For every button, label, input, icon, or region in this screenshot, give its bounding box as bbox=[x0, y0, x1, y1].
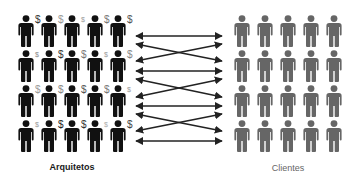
person-icon bbox=[257, 85, 272, 117]
dollar-sign-icon: $ bbox=[35, 121, 39, 128]
architects-group: $$$$$$$$$$$$$$$$$$$$ bbox=[18, 14, 133, 152]
dollar-sign-icon: $ bbox=[104, 84, 110, 95]
person-icon bbox=[257, 15, 272, 47]
person-icon bbox=[303, 120, 318, 152]
dollar-sign-icon: $ bbox=[127, 14, 133, 25]
person-icon bbox=[18, 15, 33, 47]
person-icon bbox=[41, 85, 56, 117]
dollar-sign-icon: $ bbox=[81, 16, 85, 23]
dollar-sign-icon: $ bbox=[127, 86, 131, 93]
person-icon bbox=[326, 85, 341, 117]
person-icon bbox=[303, 50, 318, 82]
person-icon bbox=[280, 85, 295, 117]
dollar-sign-icon: $ bbox=[35, 84, 41, 95]
person-icon bbox=[87, 50, 102, 82]
person-icon bbox=[64, 120, 79, 152]
dollar-sign-icon: $ bbox=[127, 49, 133, 60]
dollar-sign-icon: $ bbox=[35, 51, 39, 58]
dollar-sign-icon: $ bbox=[58, 49, 64, 60]
clients-group bbox=[234, 15, 341, 152]
person-icon bbox=[326, 120, 341, 152]
person-icon bbox=[87, 120, 102, 152]
person-icon bbox=[303, 15, 318, 47]
person-icon bbox=[280, 120, 295, 152]
person-icon bbox=[18, 85, 33, 117]
dollar-sign-icon: $ bbox=[127, 119, 133, 130]
person-icon bbox=[326, 15, 341, 47]
person-icon bbox=[234, 50, 249, 82]
person-icon bbox=[64, 15, 79, 47]
person-icon bbox=[280, 15, 295, 47]
person-icon bbox=[87, 15, 102, 47]
dollar-sign-icon: $ bbox=[35, 14, 41, 25]
person-icon bbox=[280, 50, 295, 82]
dollar-sign-icon: $ bbox=[81, 119, 87, 130]
person-icon bbox=[18, 50, 33, 82]
person-icon bbox=[110, 120, 125, 152]
dollar-sign-icon: $ bbox=[58, 14, 64, 25]
dollar-sign-icon: $ bbox=[81, 84, 87, 95]
person-icon bbox=[303, 85, 318, 117]
person-icon bbox=[87, 85, 102, 117]
person-icon bbox=[110, 85, 125, 117]
person-icon bbox=[18, 120, 33, 152]
person-icon bbox=[110, 50, 125, 82]
person-icon bbox=[234, 120, 249, 152]
person-icon bbox=[41, 120, 56, 152]
dollar-sign-icon: $ bbox=[104, 14, 110, 25]
dollar-sign-icon: $ bbox=[58, 84, 64, 95]
clients-label: Clientes bbox=[272, 163, 305, 173]
architects-clients-diagram: $$$$$$$$$$$$$$$$$$$$ bbox=[0, 0, 358, 182]
person-icon bbox=[234, 85, 249, 117]
person-icon bbox=[110, 15, 125, 47]
dollar-sign-icon: $ bbox=[58, 119, 64, 130]
dollar-sign-icon: $ bbox=[104, 51, 108, 58]
person-icon bbox=[326, 50, 341, 82]
person-icon bbox=[234, 15, 249, 47]
person-icon bbox=[257, 120, 272, 152]
relationship-arrows bbox=[136, 36, 222, 141]
dollar-sign-icon: $ bbox=[81, 49, 87, 60]
person-icon bbox=[41, 50, 56, 82]
architects-label: Arquitetos bbox=[50, 162, 95, 172]
person-icon bbox=[257, 50, 272, 82]
person-icon bbox=[64, 50, 79, 82]
dollar-sign-icon: $ bbox=[104, 121, 108, 128]
person-icon bbox=[64, 85, 79, 117]
person-icon bbox=[41, 15, 56, 47]
